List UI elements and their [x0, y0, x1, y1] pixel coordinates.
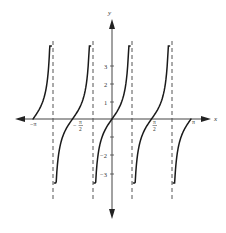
- svg-text:−: −: [73, 122, 77, 128]
- x-axis-right-arrow-icon: [201, 116, 211, 122]
- svg-text:π: π: [153, 119, 156, 125]
- svg-text:2: 2: [153, 126, 156, 132]
- x-axis-label: x: [213, 115, 218, 123]
- x-axis-left-arrow-icon: [15, 116, 25, 122]
- y-tick-label-neg2: −2: [100, 152, 107, 159]
- x-tick-label-half-pi: π 2: [153, 119, 158, 132]
- x-ticks: −π − π 2 π 2 π: [30, 119, 195, 132]
- curve-branch: [33, 46, 51, 119]
- curve-branch: [54, 46, 90, 183]
- x-axis: x: [15, 115, 218, 123]
- x-tick-label-pi: π: [192, 119, 195, 125]
- svg-text:2: 2: [79, 126, 82, 132]
- y-axis-down-arrow-icon: [109, 209, 115, 219]
- x-tick-label-neg-half-pi: − π 2: [73, 119, 83, 132]
- curve-branch: [133, 46, 169, 183]
- y-axis-up-arrow-icon: [109, 19, 115, 29]
- y-tick-label-3: 3: [104, 63, 107, 70]
- svg-text:π: π: [79, 119, 82, 125]
- y-tick-label-neg3: −3: [100, 171, 107, 178]
- y-tick-label-1: 1: [104, 99, 107, 106]
- y-axis-label: y: [107, 9, 112, 17]
- x-tick-label-neg-pi: −π: [30, 121, 36, 127]
- tangent-plot: x y 3 2 1 −2 −3 −π − π 2 π 2: [0, 0, 226, 233]
- y-tick-label-2: 2: [104, 81, 107, 88]
- y-axis: y: [107, 9, 115, 219]
- curve-branch: [173, 119, 191, 183]
